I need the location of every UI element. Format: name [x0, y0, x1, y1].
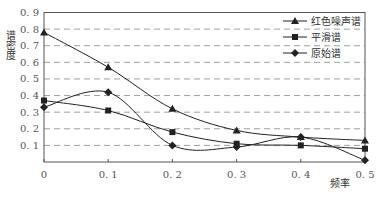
y-axis-label: 谱密度: [5, 29, 16, 61]
series-line: [44, 101, 365, 149]
legend-label: 红色噪声谱: [311, 15, 361, 27]
square-marker: [298, 142, 304, 148]
x-tick-label: 0: [41, 169, 47, 180]
square-marker: [362, 146, 368, 152]
legend-label: 平滑谱: [311, 31, 341, 43]
diamond-marker: [104, 88, 112, 96]
series-square: [41, 98, 368, 152]
diamond-marker: [40, 103, 48, 111]
gridlines: [44, 29, 365, 145]
legend-label: 原始谱: [311, 47, 341, 59]
x-tick-label: 0. 3: [227, 169, 246, 180]
legend-item: 平滑谱: [283, 31, 341, 43]
square-marker: [41, 98, 47, 104]
series-diamond: [40, 88, 369, 164]
legend: 红色噪声谱平滑谱原始谱: [283, 15, 361, 59]
diamond-marker: [168, 141, 176, 149]
legend-item: 原始谱: [283, 47, 341, 59]
square-marker: [292, 34, 298, 40]
square-marker: [105, 108, 111, 114]
y-tick-label: 0. 5: [20, 73, 39, 84]
square-marker: [169, 129, 175, 135]
x-axis-label: 频率: [330, 177, 350, 189]
x-tick-label: 0. 2: [163, 169, 182, 180]
diamond-marker: [361, 156, 369, 164]
y-tick-label: 0. 7: [20, 40, 39, 51]
y-tick-label: 0. 6: [20, 57, 39, 68]
y-tick-label: 0. 4: [20, 90, 39, 101]
triangle-marker: [168, 105, 176, 112]
y-tick-label: 0. 3: [20, 107, 39, 118]
y-tick-label: 0. 2: [20, 123, 39, 134]
x-tick-label: 0. 1: [99, 169, 118, 180]
legend-item: 红色噪声谱: [283, 15, 361, 27]
x-tick-label: 0. 4: [291, 169, 310, 180]
triangle-marker: [104, 63, 112, 70]
x-tick-label: 0. 5: [355, 169, 374, 180]
diamond-marker: [291, 49, 299, 57]
series-line: [44, 91, 365, 160]
line-chart: 0. 10. 20. 30. 40. 50. 60. 70. 80. 900. …: [0, 0, 382, 204]
y-tick-label: 0. 9: [20, 7, 39, 18]
y-tick-label: 0. 8: [20, 24, 39, 35]
y-tick-label: 0. 1: [20, 140, 39, 151]
